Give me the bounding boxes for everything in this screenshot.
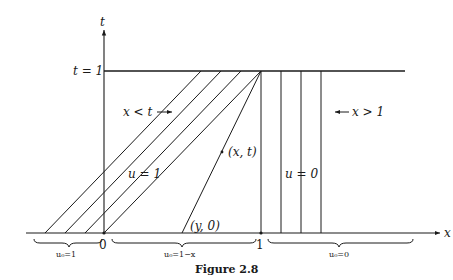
- foot-y0-label: (y, 0): [190, 219, 220, 233]
- brace-right-label: u₀=0: [329, 250, 349, 259]
- x-one-dot: [259, 231, 262, 234]
- characteristics-diagram: t x t = 1 0 1 x < t x > 1 u = 1 u = 0 (x…: [0, 0, 453, 280]
- origin-dot: [102, 231, 105, 234]
- origin-label: 0: [99, 238, 107, 252]
- point-xt-label: (x, t): [228, 145, 257, 159]
- brace-middle: [112, 239, 256, 247]
- point-xt-marker: [221, 151, 224, 154]
- brace-middle-label: u₀=1−x: [164, 250, 196, 259]
- figure-caption: Figure 2.8: [195, 263, 259, 276]
- t-axis-label: t: [100, 15, 105, 29]
- left-region-label: x < t: [123, 105, 152, 119]
- right-region-label: x > 1: [352, 105, 384, 119]
- brace-right: [268, 239, 413, 247]
- brace-left: [34, 239, 102, 247]
- x-one-label: 1: [256, 238, 264, 252]
- t-one-label: t = 1: [73, 64, 103, 78]
- brace-left-label: u₀=1: [56, 250, 76, 259]
- u-zero-label: u = 0: [285, 167, 318, 181]
- x-axis-label: x: [444, 226, 451, 240]
- u-one-label: u = 1: [128, 167, 161, 181]
- vertical-characteristics: [261, 71, 321, 233]
